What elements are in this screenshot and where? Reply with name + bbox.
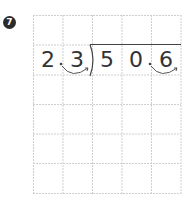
grid-paper: [0, 0, 187, 206]
divisor-digit: 2: [38, 49, 58, 71]
divisor-digit: 3: [67, 49, 87, 71]
grid-lines: [33, 15, 181, 194]
dividend-digit: 0: [126, 49, 146, 71]
dividend-digit: 5: [97, 49, 117, 71]
dividend-digit: 6: [156, 49, 176, 71]
